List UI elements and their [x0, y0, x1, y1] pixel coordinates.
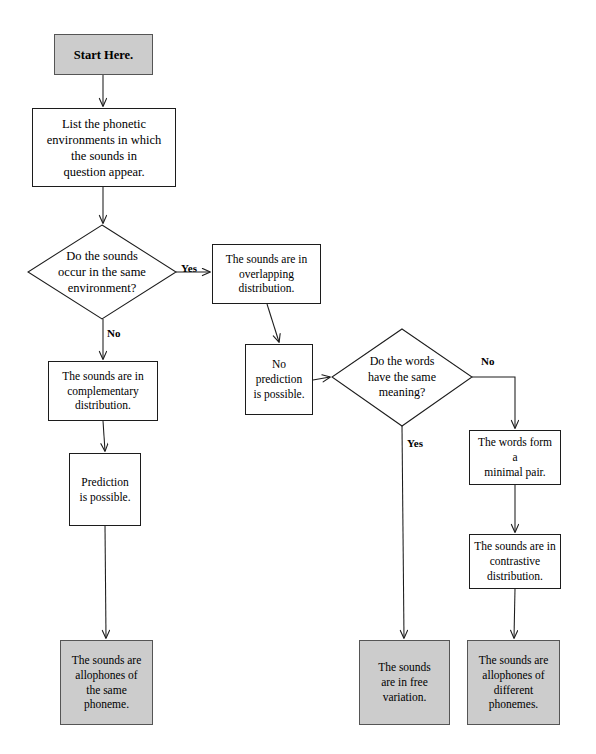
node-allophones-different-phonemes[interactable]: The sounds are allophones of different p…: [467, 640, 560, 725]
node-start[interactable]: Start Here.: [54, 34, 153, 75]
node-minimal-pair-label: The words form a minimal pair.: [470, 435, 560, 479]
node-free-variation[interactable]: The sounds are in free variation.: [359, 640, 450, 725]
node-same-environment-question-label: Do the sounds occur in the same environm…: [54, 248, 150, 296]
flowchart-canvas: Start Here. List the phonetic environmen…: [0, 0, 596, 754]
edge-label-no-minimal-pair: No: [481, 355, 495, 367]
node-no-prediction[interactable]: No prediction is possible.: [245, 344, 313, 415]
node-list-environments-label: List the phonetic environments in which …: [43, 116, 166, 180]
edge-overlapping-to-noprediction: [267, 304, 279, 342]
node-allophones-same-phoneme-label: The sounds are allophones of the same ph…: [68, 653, 146, 712]
node-complementary-distribution-label: The sounds are in complementary distribu…: [58, 369, 147, 413]
edge-label-no-complementary: No: [107, 327, 121, 339]
node-prediction-possible[interactable]: Prediction is possible.: [69, 453, 141, 526]
node-free-variation-label: The sounds are in free variation.: [374, 660, 435, 704]
node-same-meaning-question-label: Do the words have the same meaning?: [364, 354, 440, 400]
node-contrastive-distribution-label: The sounds are in contrastive distributi…: [470, 539, 559, 583]
edge-contrastive-to-allophones-diff: [514, 589, 515, 638]
node-complementary-distribution[interactable]: The sounds are in complementary distribu…: [48, 361, 158, 421]
edge-prediction-to-allophones-same: [105, 526, 106, 638]
edge-noprediction-to-decision2: [313, 377, 330, 380]
node-contrastive-distribution[interactable]: The sounds are in contrastive distributi…: [469, 534, 561, 589]
node-minimal-pair[interactable]: The words form a minimal pair.: [469, 430, 561, 485]
node-allophones-different-phonemes-label: The sounds are allophones of different p…: [475, 653, 553, 712]
node-start-label: Start Here.: [70, 47, 137, 63]
edge-label-yes-overlapping: Yes: [181, 262, 197, 274]
edge-label-yes-free-variation: Yes: [407, 437, 423, 449]
node-overlapping-distribution[interactable]: The sounds are in overlapping distributi…: [212, 244, 321, 304]
edge-decision2-no: [472, 377, 515, 428]
node-allophones-same-phoneme[interactable]: The sounds are allophones of the same ph…: [60, 640, 153, 725]
node-prediction-possible-label: Prediction is possible.: [75, 475, 134, 504]
edge-decision2-yes: [402, 426, 404, 638]
edge-complementary-to-prediction: [103, 421, 105, 451]
node-list-environments[interactable]: List the phonetic environments in which …: [32, 108, 176, 187]
node-no-prediction-label: No prediction is possible.: [249, 357, 308, 401]
node-overlapping-distribution-label: The sounds are in overlapping distributi…: [222, 252, 311, 296]
